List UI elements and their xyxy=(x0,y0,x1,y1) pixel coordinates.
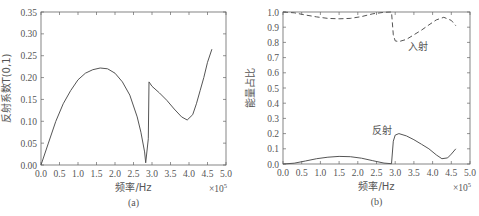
x-tick-label: 0.0 xyxy=(35,169,47,179)
y-tick-label: 0.30 xyxy=(20,29,37,39)
x-tick-label: 5.0 xyxy=(220,169,232,179)
y-axis-label: 能量占比 xyxy=(244,68,256,108)
plot-frame xyxy=(41,12,226,165)
x-tick-label: 4.0 xyxy=(183,169,195,179)
y-tick-label: 0.7 xyxy=(267,53,279,63)
x-tick-label: 3.5 xyxy=(408,168,420,178)
x-tick-label: 4.5 xyxy=(445,168,457,178)
x-tick-label: 3.5 xyxy=(165,169,177,179)
panel-label: (a) xyxy=(128,197,139,209)
x-tick-label: 4.5 xyxy=(202,169,214,179)
x-tick-label: 3.0 xyxy=(146,169,158,179)
y-tick-label: 0.3 xyxy=(267,114,279,124)
y-tick-label: 0.2 xyxy=(267,129,279,139)
x-tick-label: 0.5 xyxy=(296,168,308,178)
x-tick-label: 1.0 xyxy=(72,169,84,179)
x-tick-label: 5.0 xyxy=(464,168,476,178)
x-axis-label: 频率/Hz xyxy=(115,181,151,193)
x-tick-label: 3.0 xyxy=(389,168,401,178)
x-tick-label: 2.5 xyxy=(128,169,140,179)
x-tick-label: 1.0 xyxy=(314,168,326,178)
y-tick-label: 0.05 xyxy=(20,139,37,149)
panel-b: 0.00.51.01.52.02.53.03.54.04.55.00.00.10… xyxy=(244,8,476,209)
x-tick-label: 2.0 xyxy=(352,168,364,178)
series-line-incident xyxy=(283,12,456,42)
x-tick-label: 2.5 xyxy=(371,168,383,178)
panel-label: (b) xyxy=(371,196,383,208)
x-multiplier-label: ×105 xyxy=(453,181,471,193)
x-tick-label: 1.5 xyxy=(333,168,345,178)
y-tick-label: 0.8 xyxy=(267,38,279,48)
y-tick-label: 0.15 xyxy=(20,95,37,105)
figure-canvas: 0.00.51.01.52.02.53.03.54.04.55.00.000.0… xyxy=(0,0,479,216)
y-tick-label: 0.6 xyxy=(267,68,279,78)
y-tick-label: 1.0 xyxy=(267,8,279,18)
y-tick-label: 0.1 xyxy=(267,144,279,154)
y-tick-label: 0.0 xyxy=(267,160,279,170)
series-line-reflection xyxy=(41,49,212,165)
x-tick-label: 4.0 xyxy=(427,168,439,178)
y-tick-label: 0.20 xyxy=(20,73,37,83)
x-tick-label: 0.5 xyxy=(54,169,66,179)
x-axis-label: 频率/Hz xyxy=(358,180,394,192)
y-tick-label: 0.35 xyxy=(20,8,37,18)
y-tick-label: 0.10 xyxy=(20,117,37,127)
x-tick-label: 2.0 xyxy=(109,169,121,179)
x-tick-label: 0.0 xyxy=(277,168,289,178)
plot-frame xyxy=(283,12,470,164)
x-tick-label: 1.5 xyxy=(91,169,103,179)
y-tick-label: 0.9 xyxy=(267,23,279,33)
series-line-reflection xyxy=(283,134,456,164)
curve-annotation: 入射 xyxy=(408,41,428,52)
y-tick-label: 0.00 xyxy=(20,161,37,171)
y-tick-label: 0.25 xyxy=(20,51,37,61)
x-multiplier-label: ×105 xyxy=(209,182,227,194)
y-tick-label: 0.4 xyxy=(267,99,279,109)
panel-a: 0.00.51.01.52.02.53.03.54.04.55.00.000.0… xyxy=(0,8,232,210)
curve-annotation: 反射 xyxy=(372,125,392,136)
y-tick-label: 0.5 xyxy=(267,84,279,94)
y-axis-label: 反射系数T(0,1) xyxy=(0,54,12,124)
